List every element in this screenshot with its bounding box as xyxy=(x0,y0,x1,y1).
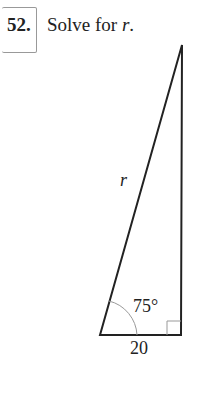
triangle-figure xyxy=(0,0,199,398)
hypotenuse-label: r xyxy=(120,170,127,191)
base-label: 20 xyxy=(130,338,148,359)
angle-label: 75° xyxy=(133,296,158,317)
right-angle-marker xyxy=(167,321,181,335)
triangle-outline xyxy=(100,45,182,335)
